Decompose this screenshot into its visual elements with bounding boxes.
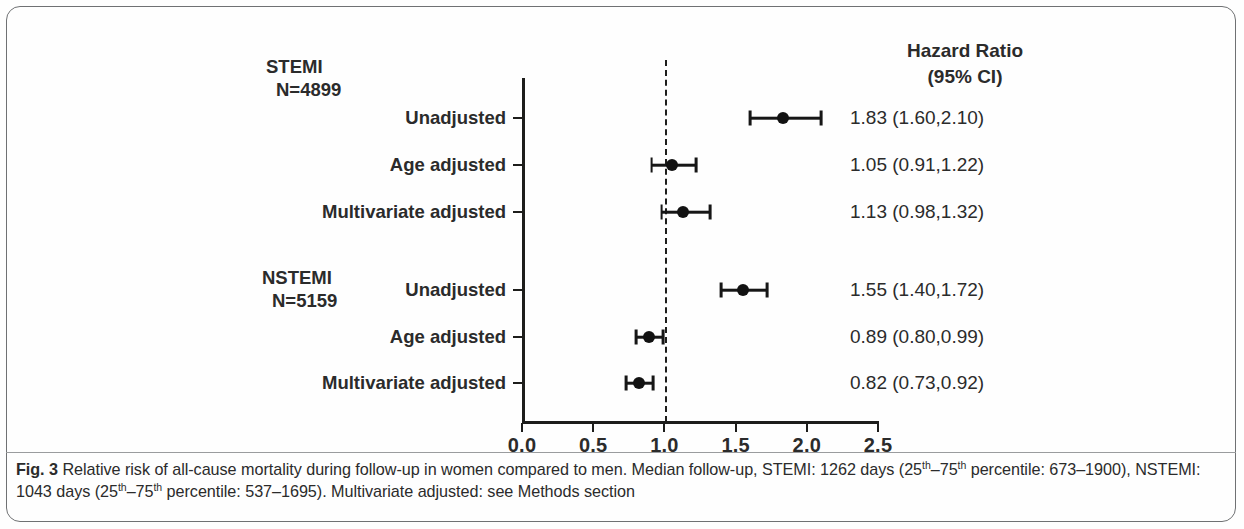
- row-label: Unadjusted: [405, 279, 506, 301]
- hazard-ratio-subtitle: (95% CI): [850, 64, 1080, 90]
- confidence-interval-cap: [720, 283, 723, 298]
- confidence-interval-cap: [652, 376, 655, 391]
- caption-tail: percentile: 537–1695). Multivariate adju…: [162, 483, 635, 501]
- y-tick: [513, 117, 523, 119]
- figure-number: Fig. 3: [16, 460, 58, 478]
- group-name: NSTEMI: [262, 267, 337, 290]
- group-label-stemi: STEMIN=4899: [266, 56, 341, 101]
- x-tick-label: 2.0: [777, 434, 837, 457]
- x-axis-line: [522, 421, 879, 424]
- confidence-interval-cap: [709, 205, 712, 220]
- hazard-ratio-value: 1.55 (1.40,1.72): [850, 279, 1080, 301]
- hazard-ratio-value: 1.13 (0.98,1.32): [850, 201, 1080, 223]
- estimate-point: [643, 331, 655, 343]
- group-sample-size: N=4899: [266, 79, 341, 102]
- caption-lead: Relative risk of all-cause mortality dur…: [62, 460, 922, 478]
- group-name: STEMI: [266, 56, 341, 79]
- estimate-point: [737, 284, 749, 296]
- group-sample-size: N=5159: [262, 290, 337, 313]
- x-tick: [592, 423, 594, 432]
- row-label: Multivariate adjusted: [322, 372, 506, 394]
- row-label: Multivariate adjusted: [322, 201, 506, 223]
- row-label: Age adjusted: [390, 326, 506, 348]
- row-label: Age adjusted: [390, 154, 506, 176]
- caption-divider: [6, 452, 1236, 453]
- x-tick: [735, 423, 737, 432]
- y-tick: [513, 211, 523, 213]
- caption-mid-3: –75: [127, 483, 154, 501]
- x-tick-label: 1.5: [706, 434, 766, 457]
- confidence-interval-cap: [694, 158, 697, 173]
- x-tick: [663, 423, 665, 432]
- caption-sup-4: th: [153, 481, 162, 493]
- caption-sup-2: th: [958, 459, 967, 471]
- group-label-nstemi: NSTEMIN=5159: [262, 267, 337, 312]
- estimate-point: [777, 112, 789, 124]
- y-tick: [513, 336, 523, 338]
- figure-caption: Fig. 3 Relative risk of all-cause mortal…: [16, 458, 1228, 503]
- x-tick: [877, 423, 879, 432]
- confidence-interval-cap: [662, 330, 665, 345]
- confidence-interval-cap: [660, 205, 663, 220]
- x-tick-label: 0.0: [492, 434, 552, 457]
- reference-line-at-1: [665, 60, 667, 422]
- y-axis-line: [522, 78, 525, 422]
- confidence-interval-cap: [748, 111, 751, 126]
- x-tick: [806, 423, 808, 432]
- hazard-ratio-header: Hazard Ratio (95% CI): [850, 38, 1080, 89]
- confidence-interval-cap: [650, 158, 653, 173]
- confidence-interval-cap: [766, 283, 769, 298]
- hazard-ratio-value: 1.05 (0.91,1.22): [850, 154, 1080, 176]
- x-tick-label: 0.5: [563, 434, 623, 457]
- y-tick: [513, 289, 523, 291]
- figure-panel: 0.00.51.01.52.02.5 UnadjustedAge adjuste…: [14, 12, 1230, 452]
- x-tick: [521, 423, 523, 432]
- y-tick: [513, 382, 523, 384]
- confidence-interval-cap: [625, 376, 628, 391]
- figure-page: 0.00.51.01.52.02.5 UnadjustedAge adjuste…: [0, 0, 1244, 529]
- caption-sup-1: th: [922, 459, 931, 471]
- row-label: Unadjusted: [405, 107, 506, 129]
- confidence-interval-cap: [820, 111, 823, 126]
- hazard-ratio-value: 0.89 (0.80,0.99): [850, 326, 1080, 348]
- estimate-point: [633, 377, 645, 389]
- x-tick-label: 2.5: [848, 434, 908, 457]
- hazard-ratio-value: 0.82 (0.73,0.92): [850, 372, 1080, 394]
- hazard-ratio-title: Hazard Ratio: [850, 38, 1080, 64]
- caption-mid-1: –75: [931, 460, 958, 478]
- hazard-ratio-value: 1.83 (1.60,2.10): [850, 107, 1080, 129]
- estimate-point: [666, 159, 678, 171]
- y-tick: [513, 164, 523, 166]
- confidence-interval-cap: [635, 330, 638, 345]
- estimate-point: [677, 206, 689, 218]
- caption-sup-3: th: [118, 481, 127, 493]
- x-tick-label: 1.0: [634, 434, 694, 457]
